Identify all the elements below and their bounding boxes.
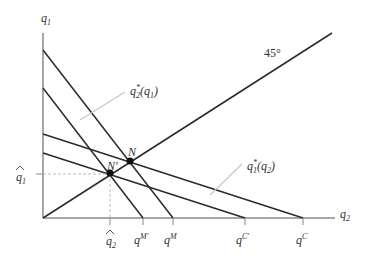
- qC-prime-sup: C': [242, 232, 249, 241]
- qM-label: qM: [164, 233, 177, 246]
- point-N-prime-label: N': [107, 160, 118, 172]
- qM-prime-sup: M': [140, 232, 148, 241]
- firm2-reaction-label: q*2(q1): [130, 84, 158, 100]
- firm1-reaction-curve-shifted: [43, 153, 245, 218]
- q2-hat-label: q2: [106, 235, 116, 250]
- x-axis-label: q2: [340, 208, 350, 223]
- angle-label: 45°: [264, 47, 281, 59]
- qC-label: qC: [296, 233, 307, 246]
- q1-hat-label: q1: [16, 171, 26, 186]
- firm1-label-arg: (q: [257, 159, 267, 173]
- q2-hat-sub: 2: [112, 241, 116, 250]
- 45-degree-line: [43, 33, 332, 218]
- firm1-label-leader: [210, 164, 242, 195]
- qC-prime-label: qC': [236, 233, 249, 246]
- cournot-reaction-diagram: [0, 0, 368, 258]
- qM-sup: M: [170, 232, 177, 241]
- firm1-reaction-label: q*1(q2): [247, 159, 275, 175]
- point-N-label: N: [128, 146, 136, 158]
- qC-sup: C: [302, 232, 307, 241]
- y-axis-label-sub: 1: [47, 18, 51, 27]
- firm2-label-close: ): [154, 84, 158, 98]
- x-axis-label-sub: 2: [346, 214, 350, 223]
- qM-prime-label: qM': [134, 233, 148, 246]
- firm1-label-close: ): [271, 159, 275, 173]
- y-axis-label: q1: [41, 12, 51, 27]
- firm2-label-arg: (q: [140, 84, 150, 98]
- firm1-reaction-curve: [43, 134, 303, 218]
- firm2-reaction-curve: [43, 50, 173, 218]
- q1-hat-sub: 1: [22, 177, 26, 186]
